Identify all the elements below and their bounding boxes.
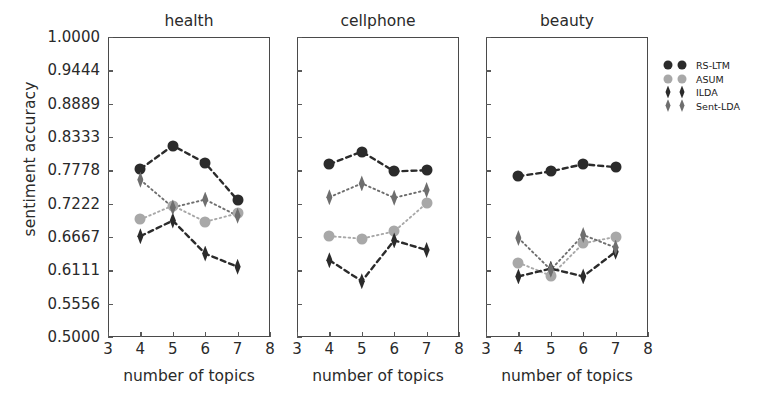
panel-title: beauty: [486, 12, 648, 30]
data-point-RS-LTM: [167, 140, 178, 151]
legend-label: Sent-LDA: [696, 100, 740, 111]
series-lines: [108, 37, 270, 337]
data-point-ASUM: [513, 257, 524, 268]
chart-panel-cellphone: cellphone345678number of topics: [297, 37, 459, 337]
x-tick-label: 8: [643, 340, 653, 358]
panel-title: cellphone: [297, 12, 459, 30]
data-point-RS-LTM: [232, 195, 243, 206]
x-tick-label: 8: [454, 340, 464, 358]
y-tick-label: 0.5000: [22, 328, 100, 346]
legend-marker-diamond-icon: [678, 86, 687, 99]
data-point-RS-LTM: [389, 166, 400, 177]
series-line-RS-LTM: [518, 164, 615, 176]
chart-panel-health: health345678number of topics: [108, 37, 270, 337]
y-tick-label: 0.7222: [22, 195, 100, 213]
data-point-RS-LTM: [610, 162, 621, 173]
legend-item-ASUM[interactable]: ASUM: [662, 72, 765, 86]
legend-item-ILDA[interactable]: ILDA: [662, 85, 765, 99]
series-line-Sent-LDA: [329, 183, 426, 197]
data-point-ASUM: [324, 231, 335, 242]
x-tick-label: 4: [325, 340, 335, 358]
x-tick-label: 3: [103, 340, 113, 358]
data-point-RS-LTM: [578, 159, 589, 170]
y-tick-label: 0.8333: [22, 128, 100, 146]
y-tick-label: 0.7778: [22, 161, 100, 179]
x-tick-label: 7: [233, 340, 243, 358]
data-point-ASUM: [200, 216, 211, 227]
series-line-ASUM: [329, 203, 426, 238]
x-tick-label: 5: [357, 340, 367, 358]
panel-title: health: [108, 12, 270, 30]
y-tick-label: 0.6667: [22, 228, 100, 246]
series-line-RS-LTM: [329, 152, 426, 172]
data-point-ASUM: [356, 233, 367, 244]
legend-marker-circle-icon: [664, 74, 673, 83]
x-tick-label: 8: [265, 340, 275, 358]
series-line-ILDA: [518, 252, 615, 277]
y-axis-tick-labels: 1.00000.94440.88890.83330.77780.72220.66…: [20, 0, 100, 403]
data-point-RS-LTM: [324, 159, 335, 170]
legend-label: ASUM: [696, 73, 724, 84]
data-point-RS-LTM: [356, 146, 367, 157]
legend-marker-circle-icon: [678, 74, 687, 83]
series-line-ILDA: [329, 240, 426, 281]
y-tick-mark: [486, 337, 491, 338]
x-tick-label: 6: [389, 340, 399, 358]
x-tick-label: 7: [422, 340, 432, 358]
legend-marker-diamond-icon: [664, 99, 673, 112]
y-tick-label: 0.5556: [22, 295, 100, 313]
legend-marker-circle-icon: [678, 61, 687, 70]
x-tick-label: 3: [292, 340, 302, 358]
legend-item-RS-LTM[interactable]: RS-LTM: [662, 58, 765, 72]
series-line-ILDA: [140, 221, 237, 267]
x-tick-label: 4: [514, 340, 524, 358]
x-axis-label: number of topics: [297, 367, 459, 385]
x-tick-label: 4: [136, 340, 146, 358]
figure-canvas: sentiment accuracy 1.00000.94440.88890.8…: [0, 0, 765, 403]
legend-marker-circle-icon: [664, 61, 673, 70]
chart-panel-beauty: beauty345678number of topics: [486, 37, 648, 337]
legend-label: RS-LTM: [696, 60, 730, 71]
series-line-Sent-LDA: [140, 180, 237, 216]
y-tick-label: 0.6111: [22, 261, 100, 279]
y-tick-mark: [108, 337, 113, 338]
series-lines: [486, 37, 648, 337]
x-tick-label: 6: [200, 340, 210, 358]
x-tick-mark: [270, 332, 271, 337]
x-axis-label: number of topics: [486, 367, 648, 385]
data-point-RS-LTM: [421, 165, 432, 176]
x-axis-label: number of topics: [108, 367, 270, 385]
x-tick-label: 5: [546, 340, 556, 358]
legend-marker-diamond-icon: [664, 86, 673, 99]
x-tick-label: 5: [168, 340, 178, 358]
data-point-RS-LTM: [200, 158, 211, 169]
legend-marker-diamond-icon: [678, 99, 687, 112]
x-tick-label: 6: [578, 340, 588, 358]
legend-item-Sent-LDA[interactable]: Sent-LDA: [662, 99, 765, 113]
y-tick-label: 0.8889: [22, 95, 100, 113]
data-point-ASUM: [135, 214, 146, 225]
series-line-Sent-LDA: [518, 235, 615, 270]
data-point-RS-LTM: [513, 171, 524, 182]
y-tick-label: 1.0000: [22, 28, 100, 46]
data-point-ASUM: [421, 198, 432, 209]
legend: RS-LTMASUMILDASent-LDA: [662, 58, 765, 114]
x-tick-label: 3: [481, 340, 491, 358]
legend-label: ILDA: [696, 87, 718, 98]
x-tick-mark: [459, 332, 460, 337]
data-point-RS-LTM: [545, 166, 556, 177]
x-tick-label: 7: [611, 340, 621, 358]
y-tick-mark: [297, 337, 302, 338]
x-tick-mark: [648, 332, 649, 337]
series-lines: [297, 37, 459, 337]
y-tick-label: 0.9444: [22, 61, 100, 79]
